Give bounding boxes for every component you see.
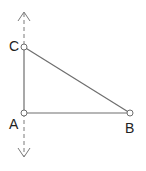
- point-c: [21, 44, 27, 50]
- point-a: [21, 110, 27, 116]
- label-a: A: [9, 116, 19, 132]
- label-c: C: [9, 38, 19, 54]
- segment-cb: [24, 47, 130, 113]
- label-b: B: [125, 120, 134, 136]
- triangle-diagram: C A B: [0, 0, 146, 171]
- point-b: [127, 110, 133, 116]
